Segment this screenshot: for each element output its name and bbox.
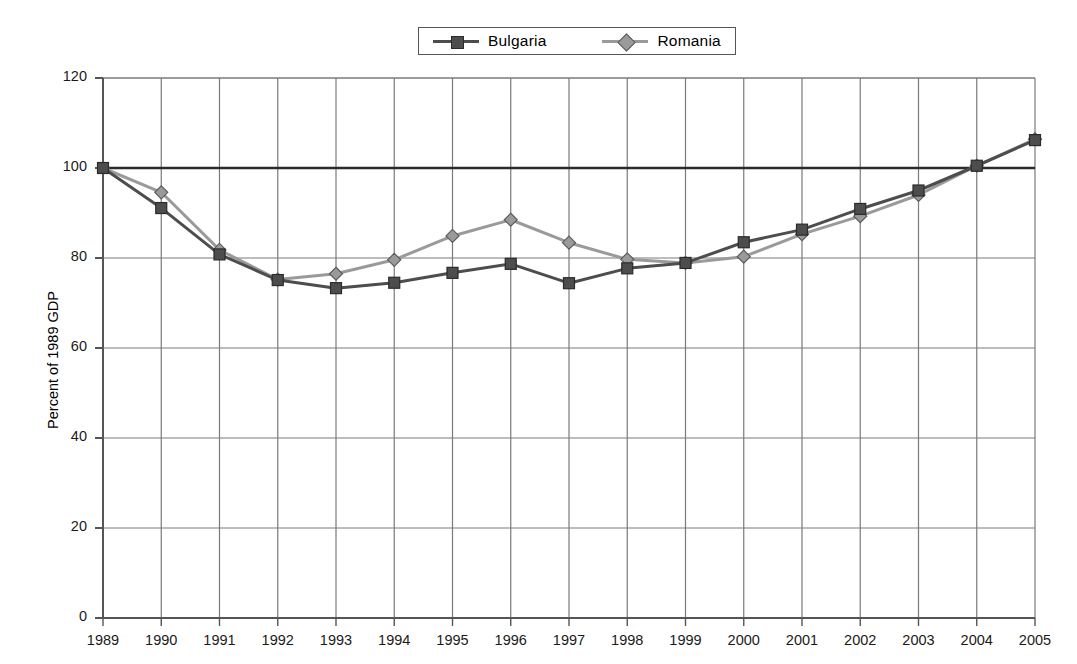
marker-bulgaria-1989[interactable] [98,163,109,174]
y-tick-label-0: 0 [25,608,87,624]
marker-bulgaria-2005[interactable] [1030,135,1041,146]
marker-bulgaria-1993[interactable] [331,283,342,294]
marker-romania-1995[interactable] [446,229,459,242]
y-tick-label-80: 80 [25,248,87,264]
marker-romania-1993[interactable] [330,267,343,280]
marker-bulgaria-1994[interactable] [389,277,400,288]
x-tick-label-2005: 2005 [1001,632,1069,648]
marker-bulgaria-2002[interactable] [855,203,866,214]
marker-bulgaria-2000[interactable] [738,237,749,248]
plot-area [0,0,1077,664]
marker-romania-1996[interactable] [504,213,517,226]
y-tick-label-60: 60 [25,338,87,354]
y-tick-label-40: 40 [25,428,87,444]
y-tick-label-20: 20 [25,518,87,534]
marker-bulgaria-1999[interactable] [680,257,691,268]
marker-bulgaria-1996[interactable] [505,258,516,269]
marker-bulgaria-1997[interactable] [564,278,575,289]
marker-romania-1994[interactable] [388,253,401,266]
marker-bulgaria-1995[interactable] [447,267,458,278]
marker-bulgaria-2003[interactable] [913,185,924,196]
axis-lines [95,78,1035,626]
marker-bulgaria-1991[interactable] [214,249,225,260]
marker-bulgaria-1990[interactable] [156,203,167,214]
marker-bulgaria-1992[interactable] [272,275,283,286]
marker-bulgaria-2004[interactable] [971,160,982,171]
y-tick-label-100: 100 [25,158,87,174]
marker-bulgaria-2001[interactable] [797,224,808,235]
marker-romania-2000[interactable] [737,250,750,263]
marker-bulgaria-1998[interactable] [622,263,633,274]
grid-lines [103,78,1035,618]
marker-romania-1997[interactable] [563,236,576,249]
gdp-line-chart: Bulgaria Romania Percent of 1989 GDP 120… [0,0,1077,664]
y-tick-label-120: 120 [25,68,87,84]
